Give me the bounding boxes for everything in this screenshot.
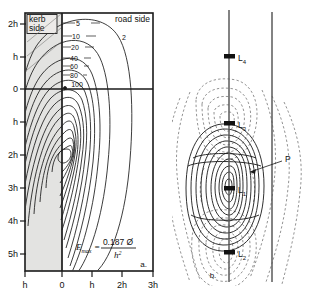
panel-a-id: a. xyxy=(140,260,147,269)
luminaire-label-l1: L1 xyxy=(238,185,247,197)
contour-label-40: 40 xyxy=(70,55,78,62)
luminaire-marker-l4[interactable] xyxy=(224,54,235,59)
formula-numerator: 0.187 Ø xyxy=(103,237,134,247)
formula-equals: = xyxy=(94,242,100,252)
contour-label-60: 60 xyxy=(70,63,78,70)
y-tick-label-0: 2h xyxy=(8,19,18,29)
luminaire-label-l2: L2 xyxy=(238,249,247,261)
luminaire-label-l4: L4 xyxy=(238,53,247,65)
y-tick-label-5: 3h xyxy=(8,183,18,193)
panel-b-id: b. xyxy=(210,271,217,280)
y-tick-label-2: 0 xyxy=(13,84,18,94)
formula-denominator: h2 xyxy=(114,250,122,261)
contour-label-100: 100 xyxy=(71,81,83,88)
luminaire-marker-l2[interactable] xyxy=(224,250,235,255)
x-tick-label-1: 0 xyxy=(59,280,64,290)
figure-root: 5 10 20 40 60 80 100 2 kerb side road si… xyxy=(0,0,310,295)
y-tick-label-7: 5h xyxy=(8,249,18,259)
dashed-contour-outer-left-1 xyxy=(177,92,201,280)
dashed-contour-outer-right-3 xyxy=(282,102,301,284)
formula-lhs: Emax xyxy=(75,242,92,254)
kerb-side-label-line2: side xyxy=(29,23,45,33)
emax-formula: Emax = 0.187 Ø h2 xyxy=(75,237,136,260)
x-tick-label-0: h xyxy=(22,280,27,290)
contour-label-20: 20 xyxy=(71,44,79,51)
x-tick-label-3: 2h xyxy=(117,280,127,290)
road-side-label: road side xyxy=(115,14,150,24)
point-p-label: P xyxy=(285,154,291,164)
y-tick-label-4: 2h xyxy=(8,150,18,160)
x-axis-ticks xyxy=(25,271,153,277)
x-tick-label-4: 3h xyxy=(148,280,158,290)
y-tick-label-1: h xyxy=(13,52,18,62)
contour-label-5: 5 xyxy=(76,20,80,27)
y-tick-label-6: 4h xyxy=(8,216,18,226)
panel-a-group: 5 10 20 40 60 80 100 2 kerb side road si… xyxy=(8,13,158,290)
contour-label-80: 80 xyxy=(70,72,78,79)
panel-b-group: L4 L3 L1 L2 P b. xyxy=(167,10,302,289)
x-tick-label-2: h xyxy=(89,280,94,290)
contour-label-10: 10 xyxy=(72,33,80,40)
dashed-contour-outer-left-2 xyxy=(167,98,191,282)
y-tick-label-3: h xyxy=(13,117,18,127)
dashed-contour-outer-right-2 xyxy=(266,96,289,282)
peak-marker xyxy=(64,87,67,90)
luminaire-label-l3: L3 xyxy=(238,120,247,132)
luminaire-marker-l1[interactable] xyxy=(224,186,235,191)
contour-label-2: 2 xyxy=(122,34,126,41)
figure-svg: 5 10 20 40 60 80 100 2 kerb side road si… xyxy=(0,0,310,295)
luminaire-marker-l3[interactable] xyxy=(224,121,235,126)
